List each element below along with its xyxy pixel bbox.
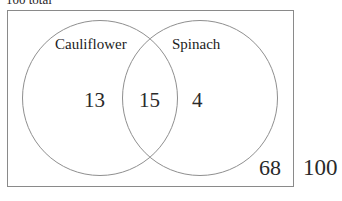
grand-total-value: 100 [303, 156, 338, 180]
count-spinach-only: 4 [192, 89, 203, 111]
set-label-spinach: Spinach [172, 36, 220, 52]
set-label-cauliflower: Cauliflower [55, 36, 127, 52]
count-intersection: 15 [139, 89, 160, 111]
total-caption: 100 total [6, 0, 52, 6]
count-outside-circles: 68 [259, 157, 281, 179]
count-cauliflower-only: 13 [84, 89, 105, 111]
venn-diagram: 100 total Cauliflower Spinach 13 15 4 68… [0, 0, 342, 201]
